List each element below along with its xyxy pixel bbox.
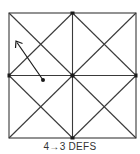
arrow-shaft [17,43,43,81]
arrow-origin-dot [41,78,45,82]
node-top-mid [71,12,75,15]
node-right-mid [135,74,138,78]
node-left-mid [8,74,11,78]
grid-diagram [0,0,140,140]
figure-caption: 4→3 DEFS [0,140,140,154]
node-center [70,73,74,77]
